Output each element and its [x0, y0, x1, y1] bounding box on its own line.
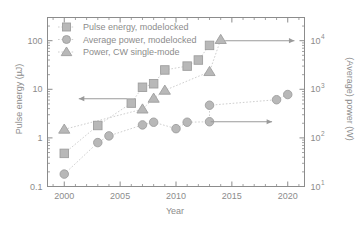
y-axis-label-right: (Average) power (W) [345, 44, 355, 154]
svg-text:2000: 2000 [54, 191, 74, 201]
svg-text:Power, CW single-mode: Power, CW single-mode [83, 47, 180, 57]
chart-legend: Pulse energy, modelockedAverage power, m… [58, 22, 196, 57]
svg-text:100: 100 [27, 36, 42, 46]
svg-text:1: 1 [321, 179, 325, 186]
svg-text:10: 10 [311, 84, 321, 94]
svg-text:Average power, modelocked: Average power, modelocked [83, 35, 196, 45]
svg-text:3: 3 [321, 82, 325, 89]
chart-figure: 200020052010201520200.111010010110210310… [0, 0, 358, 225]
x-axis-label: Year [140, 206, 210, 216]
svg-text:2020: 2020 [278, 191, 298, 201]
svg-text:4: 4 [321, 33, 325, 40]
svg-text:10: 10 [32, 84, 42, 94]
svg-text:0.1: 0.1 [30, 182, 43, 192]
svg-text:10: 10 [311, 182, 321, 192]
svg-text:2015: 2015 [222, 191, 242, 201]
svg-text:1: 1 [37, 133, 42, 143]
svg-text:Pulse energy, modelocked: Pulse energy, modelocked [83, 22, 188, 32]
plot-area: 200020052010201520200.111010010110210310… [0, 0, 358, 225]
y-axis-label-left: Pulse energy (µJ) [14, 49, 24, 149]
series-connector-lines [64, 40, 287, 174]
svg-text:10: 10 [311, 133, 321, 143]
svg-text:2005: 2005 [110, 191, 130, 201]
svg-text:2: 2 [321, 130, 325, 137]
axis-tick-labels: 200020052010201520200.111010010110210310… [27, 33, 325, 200]
svg-text:10: 10 [311, 36, 321, 46]
svg-text:2010: 2010 [166, 191, 186, 201]
